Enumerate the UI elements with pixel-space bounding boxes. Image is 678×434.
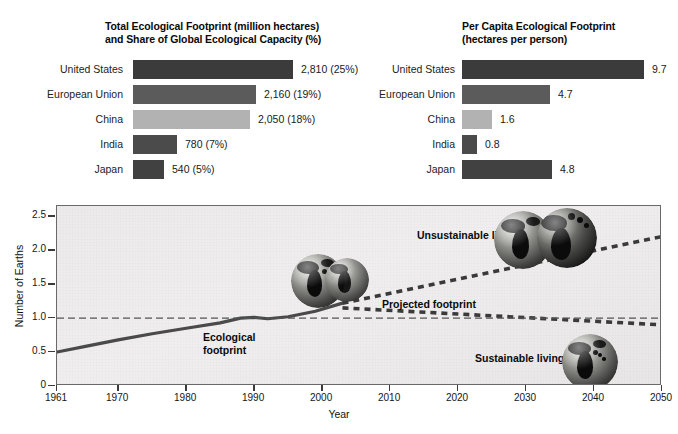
bar-row: United States9.7 [330,60,678,85]
series-ecological-footprint [57,303,343,352]
x-axis-tick-label: 2000 [298,392,344,404]
bar-row-label: European Union [330,85,455,104]
bar-row: United States2,810 (25%) [0,60,370,85]
bar-value-label: 1.6 [500,110,515,129]
y-axis-tick-label: 0.5 [6,345,46,357]
x-axis-tick-label: 2030 [502,392,548,404]
bar-value-label: 4.8 [560,160,575,179]
y-axis-tick-mark [48,215,55,216]
x-axis-tick-label: 1990 [230,392,276,404]
y-axis-tick-label: 1.5 [6,277,46,289]
single-earth-icon-back [325,258,369,302]
bar [133,135,177,154]
y-axis-tick-mark [48,249,55,250]
number-of-earths-line-chart: Number of Earths Year Ecological footpri… [0,192,678,434]
x-axis-tick-label: 2020 [434,392,480,404]
bar-value-label: 780 (7%) [185,135,228,154]
bar [133,110,250,129]
bar-value-label: 9.7 [652,60,667,79]
bar-fill [133,135,177,154]
annotation-ecological-footprint: Ecological footprint [203,331,256,356]
bar-value-label: 2,050 (18%) [258,110,315,129]
bar-fill [133,160,164,179]
x-axis-tick-mark [117,385,118,391]
bar [133,85,256,104]
bar [462,160,552,179]
bar-fill [462,85,550,104]
double-earth-icon-right [537,208,597,268]
bar [462,135,477,154]
bar-row-label: United States [0,60,123,79]
y-axis-tick-mark [48,283,55,284]
total-footprint-bar-chart: United States2,810 (25%)European Union2,… [0,60,370,185]
y-axis-tick-mark [48,317,55,318]
x-axis-tick-label: 2040 [570,392,616,404]
y-axis-tick-mark [48,385,55,386]
bar-value-label: 540 (5%) [172,160,215,179]
bar-row: China2,050 (18%) [0,110,370,135]
bar [462,110,492,129]
bar-fill [462,60,644,79]
x-axis-tick-mark [56,385,57,391]
bar-row-label: Japan [0,160,123,179]
per-capita-footprint-bar-chart: United States9.7European Union4.7China1.… [330,60,678,185]
annotation-sustainable-living: Sustainable living [475,352,564,365]
y-axis-tick-label: 2.0 [6,243,46,255]
bar-fill [133,60,293,79]
bar-row: European Union2,160 (19%) [0,85,370,110]
sustainable-earth-icon [562,334,618,385]
bar [462,60,644,79]
y-axis-tick-label: 0 [6,379,46,391]
bar-fill [462,110,492,129]
bar-row: China1.6 [330,110,678,135]
x-axis-tick-mark [253,385,254,391]
bar-fill [462,160,552,179]
bar-fill [133,110,250,129]
x-axis-tick-mark [321,385,322,391]
bar-row: Japan4.8 [330,160,678,185]
bar-row: India0.8 [330,135,678,160]
right-panel-title: Per Capita Ecological Footprint (hectare… [462,20,678,46]
bar-value-label: 0.8 [485,135,500,154]
y-axis-tick-mark [48,351,55,352]
x-axis-tick-label: 1961 [33,392,79,404]
bar [133,160,164,179]
bar [462,85,550,104]
x-axis-tick-label: 1980 [162,392,208,404]
bar-row-label: Japan [330,160,455,179]
bar [133,60,293,79]
x-axis-tick-mark [525,385,526,391]
y-axis-tick-label: 1.0 [6,311,46,323]
x-axis-tick-mark [457,385,458,391]
left-panel-title: Total Ecological Footprint (million hect… [105,20,395,46]
bar-row-label: European Union [0,85,123,104]
bar-fill [462,135,477,154]
plot-area: Ecological footprint Projected footprint… [56,205,661,385]
annotation-projected-footprint: Projected footprint [382,298,476,311]
bar-row-label: United States [330,60,455,79]
x-axis-tick-label: 2010 [366,392,412,404]
bar-row: Japan540 (5%) [0,160,370,185]
bar-row-label: China [330,110,455,129]
x-axis-tick-mark [661,385,662,391]
bar-row: India780 (7%) [0,135,370,160]
bar-row-label: India [0,135,123,154]
bar-value-label: 4.7 [558,85,573,104]
x-axis-tick-mark [185,385,186,391]
bar-row-label: China [0,110,123,129]
x-axis-tick-label: 1970 [94,392,140,404]
bar-value-label: 2,160 (19%) [264,85,321,104]
x-axis-tick-mark [593,385,594,391]
bar-row: European Union4.7 [330,85,678,110]
x-axis-tick-label: 2050 [638,392,678,404]
x-axis-label: Year [0,408,678,420]
y-axis-tick-label: 2.5 [6,209,46,221]
bar-row-label: India [330,135,455,154]
x-axis-tick-mark [389,385,390,391]
bar-fill [133,85,256,104]
